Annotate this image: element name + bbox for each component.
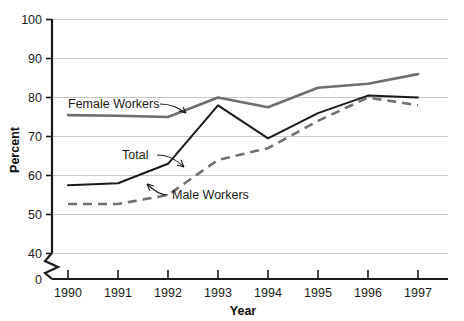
y-tick-label-70: 70	[28, 130, 42, 144]
x-tick-label-1990: 1990	[54, 286, 82, 300]
line-chart: 100 90 80 70 60 50 40 0 Percent 1990 199…	[0, 0, 464, 321]
y-tick-label-80: 80	[28, 91, 42, 105]
x-tick-label-1996: 1996	[354, 286, 382, 300]
y-tick-label-90: 90	[28, 52, 42, 66]
annotation-label-female-workers: Female Workers	[68, 97, 159, 111]
x-tick-label-1993: 1993	[204, 286, 232, 300]
y-tick-label-0: 0	[35, 273, 42, 287]
x-tick-label-1994: 1994	[254, 286, 282, 300]
chart-container: 100 90 80 70 60 50 40 0 Percent 1990 199…	[0, 0, 464, 321]
annotation-label-male-workers: Male Workers	[172, 188, 249, 202]
x-tick-label-1995: 1995	[304, 286, 332, 300]
y-tick-label-100: 100	[21, 13, 42, 27]
y-tick-label-60: 60	[28, 169, 42, 183]
y-axis-title: Percent	[8, 126, 22, 173]
x-axis-title: Year	[230, 304, 257, 318]
y-tick-label-50: 50	[28, 208, 42, 222]
x-tick-label-1997: 1997	[404, 286, 432, 300]
chart-background	[0, 0, 464, 321]
annotation-label-total: Total	[122, 148, 148, 162]
x-tick-label-1991: 1991	[104, 286, 132, 300]
y-tick-label-40: 40	[28, 247, 42, 261]
x-tick-label-1992: 1992	[154, 286, 182, 300]
